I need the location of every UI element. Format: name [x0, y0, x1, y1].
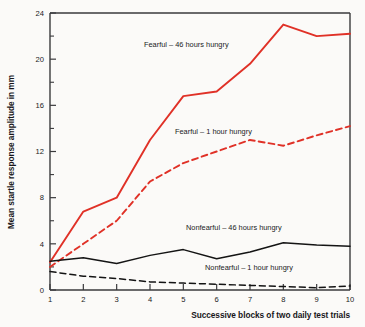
x-tick-label: 4	[148, 295, 152, 304]
x-tick-label: 1	[48, 295, 52, 304]
x-axis-title: Successive blocks of two daily test tria…	[191, 310, 350, 320]
x-tick-label: 2	[81, 295, 85, 304]
y-axis-title: Mean startle response amplitude in mm	[6, 75, 16, 229]
y-tick-label: 12	[36, 147, 44, 156]
series-annotation-1: Fearful – 1 hour hungry	[175, 127, 252, 136]
x-tick-label: 9	[315, 295, 319, 304]
y-tick-label: 0	[40, 286, 44, 295]
series-annotation-0: Fearful – 46 hours hungry	[144, 40, 229, 49]
y-tick-label: 16	[36, 101, 44, 110]
y-tick-label: 24	[36, 9, 44, 18]
y-tick-label: 8	[40, 193, 44, 202]
x-tick-label: 8	[281, 295, 285, 304]
x-tick-label: 3	[115, 295, 119, 304]
y-tick-label: 4	[40, 240, 44, 249]
series-annotation-3: Nonfearful – 1 hour hungry	[205, 263, 293, 272]
x-tick-label: 7	[248, 295, 252, 304]
chart-figure: 04812162024 12345678910 Fearful – 46 hou…	[0, 0, 365, 327]
startle-response-line-chart: 04812162024 12345678910 Fearful – 46 hou…	[0, 0, 365, 327]
series-annotation-2: Nonfearful – 46 hours hungry	[186, 223, 282, 232]
y-tick-label: 20	[36, 55, 44, 64]
x-tick-label: 5	[181, 295, 185, 304]
x-tick-label: 6	[215, 295, 219, 304]
x-tick-label: 10	[346, 295, 354, 304]
